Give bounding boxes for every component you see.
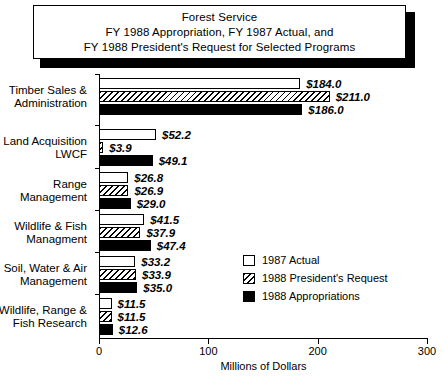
category-label: Wildlife, Range &Fish Research [0, 304, 87, 330]
hatched-square-icon [243, 273, 255, 284]
x-axis-tick-label: 300 [418, 345, 436, 357]
bar-2 [99, 155, 153, 166]
y-axis-tick [95, 168, 100, 169]
category-label-line: Land Acquisition [0, 135, 87, 148]
clipped-caption-artifact [4, 370, 114, 379]
bar-2 [99, 240, 151, 251]
white-square-icon [243, 255, 255, 266]
bar-0 [99, 214, 144, 225]
category-label-line: Management [0, 275, 87, 288]
bar-group: Land AcquisitionLWCF$52.2$3.9$49.1 [0, 129, 444, 166]
x-axis-tick [99, 339, 100, 344]
y-axis-tick [95, 294, 100, 295]
bar-2 [99, 104, 302, 115]
bar-0 [99, 298, 112, 309]
bar-value-label: $47.4 [157, 241, 186, 252]
x-axis-tick [427, 339, 428, 344]
y-axis-tick [95, 74, 100, 75]
category-label-line: Administration [0, 97, 87, 110]
category-label-line: Range [0, 178, 87, 191]
bar-value-label: $11.5 [118, 299, 146, 310]
bar-chart-plot: Timber Sales &Administration$184.0$211.0… [0, 0, 444, 381]
bar-value-label: $26.9 [134, 186, 163, 197]
category-label-line: Wildlife & Fish [0, 220, 87, 233]
black-square-icon [243, 291, 255, 302]
bar-value-label: $37.9 [146, 228, 175, 239]
bar-group: RangeManagement$26.8$26.9$29.0 [0, 172, 444, 209]
y-axis-tick [95, 252, 100, 253]
bar-value-label: $52.2 [162, 130, 191, 141]
bar-1 [99, 91, 330, 102]
x-axis-tick [208, 339, 209, 344]
bar-1 [99, 227, 140, 238]
bar-2 [99, 198, 131, 209]
bar-value-label: $3.9 [109, 143, 131, 154]
category-label-line: LWCF [0, 148, 87, 161]
category-label: Land AcquisitionLWCF [0, 135, 87, 161]
x-axis-line [99, 338, 428, 339]
bar-2 [99, 282, 137, 293]
bar-0 [99, 172, 128, 183]
bar-group: Wildlife & FishManagment$41.5$37.9$47.4 [0, 214, 444, 251]
bar-value-label: $33.2 [141, 257, 170, 268]
x-axis-title: Millions of Dollars [99, 360, 428, 372]
bar-0 [99, 256, 135, 267]
bar-value-label: $41.5 [150, 215, 179, 226]
bar-1 [99, 185, 128, 196]
category-label-line: Soil, Water & Air [0, 262, 87, 275]
bar-value-label: $11.5 [118, 312, 146, 323]
x-axis-tick-label: 200 [308, 345, 326, 357]
category-label-line: Fish Research [0, 317, 87, 330]
legend-item: 1987 Actual [243, 252, 388, 268]
x-axis-tick-label: 0 [96, 345, 102, 357]
bar-2 [99, 324, 113, 335]
category-label-line: Management [0, 191, 87, 204]
bar-value-label: $184.0 [306, 79, 341, 90]
bar-value-label: $211.0 [336, 92, 370, 103]
legend-item-label: 1988 President's Request [262, 272, 388, 284]
category-label: Timber Sales &Administration [0, 84, 87, 110]
chart-legend: 1987 Actual1988 President's Request1988 … [243, 252, 388, 306]
y-axis-tick [95, 210, 100, 211]
x-axis-tick [318, 339, 319, 344]
category-label: RangeManagement [0, 178, 87, 204]
bar-1 [99, 142, 103, 153]
bar-0 [99, 129, 156, 140]
bar-value-label: $35.0 [143, 283, 172, 294]
bar-value-label: $49.1 [159, 156, 188, 167]
bar-value-label: $26.8 [134, 173, 163, 184]
bar-1 [99, 269, 136, 280]
legend-item-label: 1987 Actual [262, 254, 320, 266]
y-axis-tick [95, 125, 100, 126]
category-label-line: Timber Sales & [0, 84, 87, 97]
legend-item: 1988 Appropriations [243, 288, 388, 304]
legend-item: 1988 President's Request [243, 270, 388, 286]
bar-1 [99, 311, 112, 322]
bar-0 [99, 78, 300, 89]
x-axis-tick-label: 100 [199, 345, 217, 357]
category-label-line: Wildlife, Range & [0, 304, 87, 317]
bar-value-label: $33.9 [142, 270, 171, 281]
category-label-line: Managment [0, 233, 87, 246]
category-label: Soil, Water & AirManagement [0, 262, 87, 288]
bar-value-label: $29.0 [137, 199, 166, 210]
bar-value-label: $12.6 [119, 325, 148, 336]
category-label: Wildlife & FishManagment [0, 220, 87, 246]
bar-group: Timber Sales &Administration$184.0$211.0… [0, 78, 444, 115]
bar-value-label: $186.0 [308, 105, 343, 116]
legend-item-label: 1988 Appropriations [262, 290, 360, 302]
